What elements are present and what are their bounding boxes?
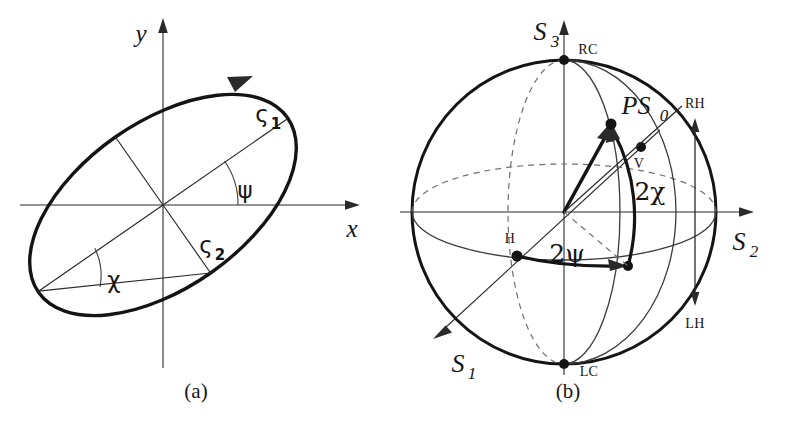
y-axis: y <box>132 18 167 368</box>
rh-label: RH <box>685 96 705 111</box>
panel-polarization-ellipse: y x ς 1 <box>0 0 392 426</box>
y-axis-arrowhead <box>158 18 168 33</box>
psi-angle: ψ <box>225 161 253 205</box>
s1-axis-arrowhead <box>433 326 452 340</box>
lh-label: LH <box>685 316 704 331</box>
lc-pole-label: LC <box>580 364 599 379</box>
s1-axis-label-subscript: 1 <box>468 364 477 383</box>
s2-axis-label-subscript: 2 <box>750 242 759 261</box>
x-axis: x <box>20 200 360 242</box>
s2-axis-label: S <box>733 227 746 256</box>
chi-angle-arc <box>95 248 101 287</box>
chi-angle: χ <box>95 248 121 293</box>
rc-pole-label: RC <box>578 42 597 57</box>
lh-arrowhead <box>691 292 700 306</box>
figure-container: y x ς 1 <box>0 0 785 426</box>
two-psi-label: 2ψ <box>549 239 585 268</box>
x-axis-arrowhead <box>345 200 360 210</box>
x-axis-label: x <box>345 215 357 242</box>
s1-axis-label: S <box>452 349 465 378</box>
s3-axis: S 3 <box>534 17 569 375</box>
lc-pole-dot <box>559 359 569 369</box>
rc-pole-dot <box>559 55 569 65</box>
h-point-label: H <box>505 231 515 246</box>
panel-a-caption: (a) <box>184 379 207 403</box>
psi-angle-label: ψ <box>237 177 252 203</box>
state-vector-line <box>564 132 608 212</box>
s3-axis-label-subscript: 3 <box>550 32 560 51</box>
two-chi-label: 2χ <box>634 177 665 206</box>
ellipse-diagram-svg: y x ς 1 <box>0 0 392 426</box>
chi-angle-label: χ <box>107 267 120 293</box>
state-vector-tip-dot <box>606 119 617 130</box>
panel-b-caption: (b) <box>556 379 581 403</box>
y-axis-label: y <box>132 20 147 47</box>
sphere-diagram-svg: S 3 S 2 S 1 <box>392 0 785 426</box>
psi-angle-arc <box>225 161 239 205</box>
rotation-direction-arrowhead <box>227 76 253 92</box>
semi-major-label-subscript: 1 <box>271 115 281 133</box>
two-chi-arc-path <box>614 133 635 266</box>
semi-minor-label-subscript: 2 <box>215 246 225 264</box>
v-point-label: V <box>634 156 644 171</box>
s2-axis-arrowhead <box>739 207 754 217</box>
semi-minor-label: ς <box>199 232 213 258</box>
s3-axis-arrowhead <box>559 20 569 35</box>
rh-arrowhead <box>691 118 700 132</box>
s3-axis-label: S <box>534 17 547 46</box>
ps0-label: PS <box>621 91 651 120</box>
panel-poincare-sphere: S 3 S 2 S 1 <box>392 0 785 426</box>
handedness-indicator: RH LH <box>685 96 705 331</box>
s1-axis-line <box>445 130 660 328</box>
semi-minor-line-opposite <box>115 137 163 205</box>
semi-major-label: ς <box>255 101 269 127</box>
v-point-marker: V <box>634 142 646 171</box>
